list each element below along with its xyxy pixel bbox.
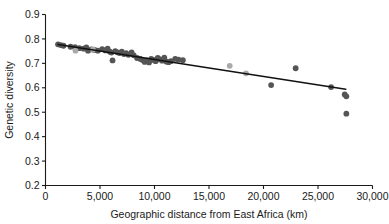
y-tick-label: 0.6 [25, 81, 40, 93]
data-point [343, 93, 349, 99]
data-point [110, 58, 116, 64]
data-point [180, 57, 186, 63]
x-tick-label: 15,000 [193, 190, 225, 202]
data-point [268, 82, 274, 88]
x-axis-label: Geographic distance from East Africa (km… [110, 208, 307, 220]
y-tick-label: 0.2 [25, 179, 40, 191]
y-tick-label: 0.8 [25, 33, 40, 45]
y-tick-label: 0.9 [25, 8, 40, 20]
data-point [73, 48, 79, 54]
x-tick-label: 30,000 [356, 190, 388, 202]
x-tick-label: 20,000 [247, 190, 279, 202]
data-point [293, 65, 299, 71]
x-tick-label: 0 [43, 190, 49, 202]
chart-canvas: 0.20.30.40.50.60.70.80.905,00010,00015,0… [0, 0, 389, 224]
data-point [227, 63, 233, 69]
genetic-diversity-scatter-figure: 0.20.30.40.50.60.70.80.905,00010,00015,0… [0, 0, 389, 224]
y-axis-label: Genetic diversity [3, 60, 15, 138]
data-point [343, 111, 349, 117]
y-tick-label: 0.7 [25, 57, 40, 69]
y-tick-label: 0.4 [25, 130, 40, 142]
x-tick-label: 25,000 [302, 190, 334, 202]
x-tick-label: 10,000 [138, 190, 170, 202]
y-tick-label: 0.5 [25, 106, 40, 118]
y-tick-label: 0.3 [25, 155, 40, 167]
x-tick-label: 5,000 [87, 190, 113, 202]
